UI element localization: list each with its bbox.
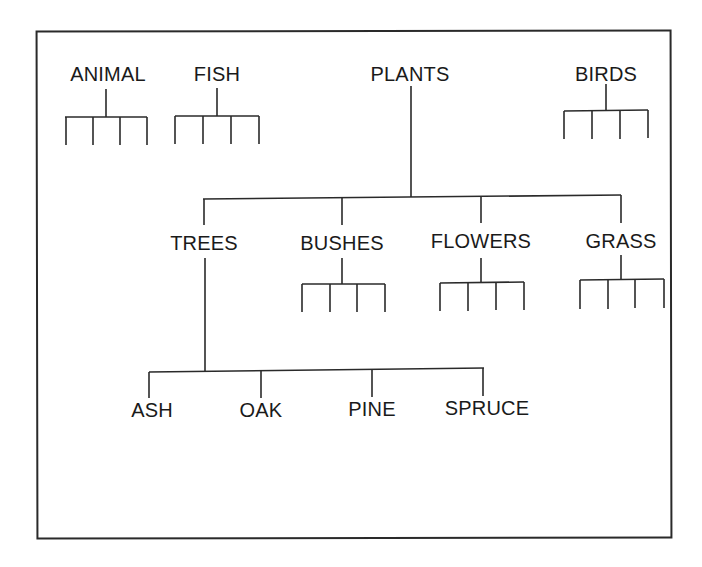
node-grass: GRASS <box>585 231 656 251</box>
node-oak: OAK <box>240 400 283 420</box>
birds-stub-connector <box>564 84 648 139</box>
node-pine: PINE <box>348 399 395 419</box>
node-plants: PLANTS <box>370 64 449 84</box>
tree-connectors <box>0 0 702 567</box>
grass-stub-connector <box>580 255 664 309</box>
node-trees: TREES <box>170 233 238 253</box>
node-spruce: SPRUCE <box>445 398 530 418</box>
node-birds: BIRDS <box>575 64 637 84</box>
animal-stub-connector <box>65 89 147 145</box>
trees-connector <box>149 258 484 398</box>
bushes-stub-connector <box>302 258 385 312</box>
plants-connector <box>203 86 621 225</box>
node-flowers: FLOWERS <box>431 231 531 251</box>
flowers-stub-connector <box>440 258 524 311</box>
node-animal: ANIMAL <box>70 64 146 84</box>
node-bushes: BUSHES <box>300 233 383 253</box>
node-fish: FISH <box>194 64 240 84</box>
fish-stub-connector <box>175 88 259 144</box>
node-ash: ASH <box>131 400 173 420</box>
